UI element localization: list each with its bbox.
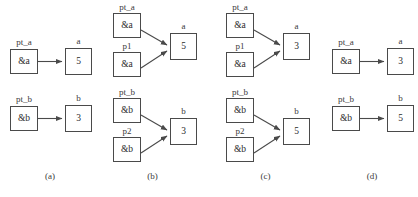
panel-a: pt_a &a a 5 pt_b &b b 3 (a) — [0, 0, 100, 197]
pointer-box-pt-a: &a — [10, 49, 38, 74]
pointer-box-pt-b: &b — [332, 106, 360, 131]
pointer-box-pt-b: &b — [10, 106, 38, 131]
bottom-cut-text — [0, 189, 418, 197]
pointer-label-p2: p2 — [226, 127, 254, 136]
variable-label-a: a — [65, 37, 92, 46]
pointer-label-pt-a: pt_a — [10, 38, 38, 47]
variable-box-b: 3 — [170, 118, 197, 145]
pointer-box-pt-a: &a — [332, 49, 360, 74]
variable-box-b: 5 — [283, 118, 310, 145]
pointer-label-p2: p2 — [113, 127, 141, 136]
panel-caption-b: (b) — [100, 172, 205, 181]
pointer-label-pt-a: pt_a — [332, 38, 360, 47]
pointer-box-pt-b: &b — [226, 98, 254, 123]
pointer-box-p1: &a — [226, 52, 254, 77]
pointer-box-pt-a: &a — [113, 13, 141, 38]
figure-canvas: pt_a &a a 5 pt_b &b b 3 (a) pt_a &a p1 &… — [0, 0, 418, 197]
panel-b: pt_a &a p1 &a a 5 pt_b &b p2 &b b 3 (b) — [100, 0, 205, 197]
panel-caption-c: (c) — [213, 172, 318, 181]
pointer-box-p2: &b — [226, 137, 254, 162]
pointer-box-p2: &b — [113, 137, 141, 162]
panel-caption-a: (a) — [0, 172, 100, 181]
pointer-label-pt-a: pt_a — [113, 3, 141, 12]
variable-box-b: 3 — [65, 105, 92, 132]
variable-label-a: a — [170, 22, 197, 31]
variable-label-b: b — [387, 94, 414, 103]
variable-box-a: 3 — [387, 48, 414, 75]
variable-label-b: b — [65, 94, 92, 103]
variable-label-a: a — [387, 37, 414, 46]
variable-box-a: 5 — [170, 33, 197, 60]
pointer-label-p1: p1 — [226, 42, 254, 51]
panel-c: pt_a &a p1 &a a 3 pt_b &b p2 &b b 5 (c) — [213, 0, 318, 197]
pointer-label-pt-b: pt_b — [113, 88, 141, 97]
panel-d: pt_a &a a 3 pt_b &b b 5 (d) — [326, 0, 418, 197]
variable-box-a: 3 — [283, 33, 310, 60]
variable-box-b: 5 — [387, 105, 414, 132]
pointer-label-pt-b: pt_b — [10, 95, 38, 104]
variable-label-a: a — [283, 22, 310, 31]
variable-box-a: 5 — [65, 48, 92, 75]
pointer-box-pt-b: &b — [113, 98, 141, 123]
panel-caption-d: (d) — [326, 172, 418, 181]
pointer-box-pt-a: &a — [226, 13, 254, 38]
pointer-label-pt-b: pt_b — [226, 88, 254, 97]
pointer-label-pt-b: pt_b — [332, 95, 360, 104]
pointer-label-p1: p1 — [113, 42, 141, 51]
pointer-label-pt-a: pt_a — [226, 3, 254, 12]
pointer-box-p1: &a — [113, 52, 141, 77]
variable-label-b: b — [170, 107, 197, 116]
variable-label-b: b — [283, 107, 310, 116]
